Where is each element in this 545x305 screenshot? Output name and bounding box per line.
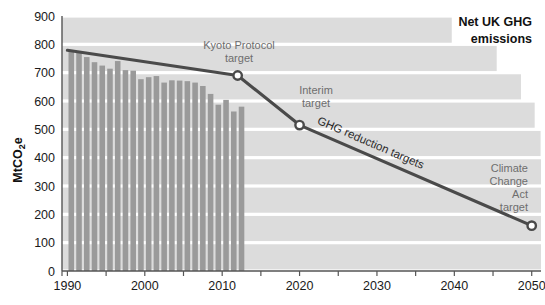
y-tick-label-400: 400 bbox=[34, 151, 55, 165]
ghg-emissions-chart: 9008007006005004003002001000 19902000201… bbox=[0, 0, 545, 305]
y-tick-label-200: 200 bbox=[34, 208, 55, 222]
x-tick-label-2030: 2030 bbox=[363, 279, 391, 293]
y-tick-label-300: 300 bbox=[34, 180, 55, 194]
bar-2005 bbox=[185, 81, 191, 271]
kyoto-label-line2: target bbox=[225, 52, 253, 64]
interim-label-line2: target bbox=[302, 97, 330, 109]
y-axis-title-tail: e bbox=[11, 137, 25, 144]
annotation-interim-target: Interim target bbox=[299, 84, 333, 109]
bar-2003 bbox=[169, 80, 175, 271]
cca-label-line4: target bbox=[500, 201, 528, 213]
bar-1998 bbox=[130, 71, 136, 271]
bar-1991 bbox=[76, 53, 82, 271]
bar-1994 bbox=[99, 66, 105, 271]
bar-2001 bbox=[154, 76, 160, 271]
x-tick-label-1990: 1990 bbox=[54, 279, 82, 293]
cca-label-line2: Change bbox=[489, 175, 528, 187]
y-axis-title-main: MtCO bbox=[11, 149, 25, 183]
cca-label-line3: Act bbox=[512, 188, 528, 200]
chart-container: 9008007006005004003002001000 19902000201… bbox=[0, 0, 545, 305]
bar-2010 bbox=[223, 100, 229, 271]
target-marker-2012 bbox=[233, 71, 241, 79]
y-tick-label-600: 600 bbox=[34, 95, 55, 109]
x-tick-label-2000: 2000 bbox=[131, 279, 159, 293]
target-marker-2050 bbox=[528, 221, 536, 229]
y-tick-label-0: 0 bbox=[48, 265, 55, 279]
bar-2012 bbox=[239, 107, 245, 271]
bar-2006 bbox=[192, 83, 198, 271]
bar-1995 bbox=[107, 69, 113, 271]
y-axis-title: MtCO2e bbox=[11, 137, 27, 182]
bar-2008 bbox=[208, 94, 214, 271]
bar-2004 bbox=[177, 81, 183, 271]
y-tick-label-500: 500 bbox=[34, 123, 55, 137]
bar-2007 bbox=[200, 86, 206, 271]
y-tick-label-100: 100 bbox=[34, 236, 55, 250]
chart-title-line1: Net UK GHG bbox=[458, 15, 532, 29]
bar-1993 bbox=[92, 62, 98, 271]
x-tick-label-2040: 2040 bbox=[440, 279, 468, 293]
bar-1996 bbox=[115, 61, 121, 271]
chart-title-line2: emissions bbox=[471, 32, 532, 46]
bar-1992 bbox=[84, 57, 90, 271]
x-tick-label-2010: 2010 bbox=[208, 279, 236, 293]
bar-1999 bbox=[138, 79, 144, 271]
interim-label-line1: Interim bbox=[299, 84, 333, 96]
cca-label-line1: Climate bbox=[491, 162, 528, 174]
bar-1997 bbox=[123, 70, 129, 271]
svg-text:MtCO2e: MtCO2e bbox=[11, 137, 27, 182]
bar-1990 bbox=[69, 50, 75, 271]
bar-2011 bbox=[231, 111, 237, 271]
y-tick-label-700: 700 bbox=[34, 66, 55, 80]
x-tick-label-2020: 2020 bbox=[286, 279, 314, 293]
bar-2000 bbox=[146, 77, 152, 271]
y-tick-label-900: 900 bbox=[34, 10, 55, 24]
y-tick-label-800: 800 bbox=[34, 38, 55, 52]
target-marker-2020 bbox=[295, 121, 303, 129]
bar-2009 bbox=[216, 105, 222, 271]
kyoto-label-line1: Kyoto Protocol bbox=[203, 39, 275, 51]
bar-2002 bbox=[161, 83, 167, 271]
x-tick-label-2050: 2050 bbox=[518, 279, 545, 293]
